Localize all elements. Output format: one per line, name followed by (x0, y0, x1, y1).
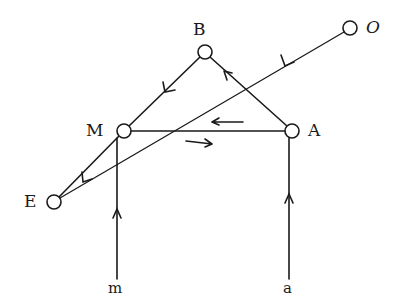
edge-a-b (210, 57, 287, 126)
label-M: M (86, 122, 103, 139)
diagram-canvas (0, 0, 404, 308)
node-M (117, 124, 131, 138)
label-B: B (193, 21, 206, 38)
arrow-left-icon (212, 118, 243, 125)
arrow-right-icon (186, 139, 212, 147)
node-A (285, 124, 299, 138)
node-E (47, 195, 61, 209)
node-B (198, 45, 212, 59)
label-O: O (366, 19, 380, 36)
edge-m-e (59, 136, 119, 197)
label-E: E (24, 193, 36, 210)
arrow-o-e-icon (281, 55, 294, 66)
node-O (343, 21, 357, 35)
label-m: m (108, 281, 122, 296)
label-A: A (308, 122, 320, 139)
label-a: a (283, 281, 292, 296)
